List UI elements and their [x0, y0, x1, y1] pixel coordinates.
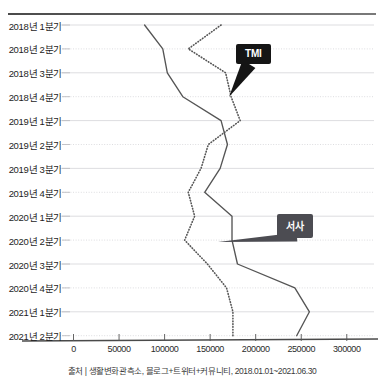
chart-container: 2018년 1분기2018년 2분기2018년 3분기2018년 4분기2019…: [0, 0, 384, 388]
y-axis-label: 2020년 1분기: [9, 210, 62, 224]
annotation-callout-tmi: TMI: [236, 44, 271, 64]
y-axis-label: 2020년 4분기: [9, 281, 62, 295]
y-axis-label: 2018년 3분기: [9, 66, 62, 80]
y-axis-label: 2018년 1분기: [9, 19, 62, 33]
y-axis-label: 2018년 4분기: [9, 90, 62, 104]
y-axis-label: 2019년 4분기: [9, 186, 62, 200]
y-axis-label: 2018년 2분기: [9, 42, 62, 56]
y-axis-label: 2020년 2분기: [9, 234, 62, 248]
y-axis-label: 2019년 3분기: [9, 162, 62, 176]
source-note: 출처 | 생활변화관측소, 블로그+트위터+커뮤니티, 2018.01.01~2…: [0, 364, 384, 376]
callout-pointer: [229, 60, 255, 97]
y-axis-label: 2020년 3분기: [9, 258, 62, 272]
y-axis-label: 2021년 1분기: [9, 305, 62, 319]
x-axis-label: 300000: [317, 344, 377, 354]
y-axis-label: 2021년 2분기: [9, 329, 62, 343]
annotation-callout-seosa: 서사: [277, 214, 313, 238]
y-axis-label: 2019년 1분기: [9, 114, 62, 128]
y-axis-label: 2019년 2분기: [9, 138, 62, 152]
